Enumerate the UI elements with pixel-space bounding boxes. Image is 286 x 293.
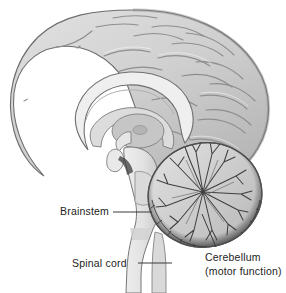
brain-anatomy-figure: Brainstem Spinal cord Cerebellum (motor … — [0, 0, 286, 293]
label-cerebellum: Cerebellum (motor function) — [205, 250, 282, 278]
label-cerebellum-title: Cerebellum — [205, 251, 261, 263]
label-brainstem: Brainstem — [60, 205, 109, 218]
label-cerebellum-subtitle: (motor function) — [205, 264, 282, 278]
label-spinal-cord: Spinal cord — [72, 257, 127, 270]
